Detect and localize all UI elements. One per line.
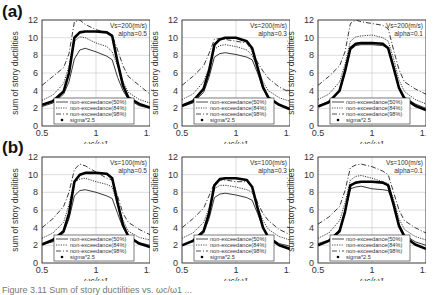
x-axis-label: ωc/ω1	[224, 139, 249, 144]
y-axis-label: sum of story ductilities	[10, 168, 20, 252]
y-tick-label: 4	[173, 223, 178, 233]
y-tick-label: 10	[168, 33, 178, 43]
annotation-text: alpha=0.1	[394, 30, 423, 38]
y-tick-label: 6	[309, 205, 314, 215]
legend-entry: sigma*2.5	[70, 117, 95, 123]
y-tick-label: 6	[33, 205, 38, 215]
x-tick-label: 1.5	[420, 265, 426, 275]
y-tick-label: 4	[309, 86, 314, 96]
y-tick-label: 6	[173, 205, 178, 215]
x-tick-label: 1	[233, 128, 238, 138]
x-axis-label: ωc/ω1	[224, 276, 249, 281]
x-tick-label: 1	[93, 128, 98, 138]
y-tick-label: 10	[28, 33, 38, 43]
chart-b-1: 0246810120.511.5sum of story ductilities…	[0, 145, 150, 281]
x-tick-label: 1	[369, 128, 374, 138]
x-tick-label: 1	[93, 265, 98, 275]
annotation-text: Vs=200(m/s)	[386, 22, 423, 30]
x-axis-label: ωc/ω1	[360, 276, 385, 281]
y-tick-label: 2	[33, 240, 38, 250]
y-tick-label: 10	[168, 170, 178, 180]
x-axis-label: ωc/ω1	[84, 276, 109, 281]
x-axis-label: ωc/ω1	[84, 139, 109, 144]
legend-entry: sigma*2.5	[346, 117, 371, 123]
chart-b-3: 0246810120.511.5sum of story ductilities…	[276, 145, 426, 281]
x-tick-label: 1	[233, 265, 238, 275]
y-tick-label: 12	[28, 15, 38, 25]
legend: non-exceedance(50%)non-exceedance(84%)no…	[330, 98, 410, 124]
annotation-text: alpha=0.1	[394, 167, 423, 175]
chart-a-3: 0246810120.511.5sum of story ductilities…	[276, 8, 426, 144]
y-tick-label: 8	[309, 50, 314, 60]
y-tick-label: 8	[173, 187, 178, 197]
legend: non-exceedance(50%)non-exceedance(84%)no…	[54, 98, 134, 124]
annotation-text: Vs=100(m/s)	[386, 159, 423, 167]
y-tick-label: 2	[173, 240, 178, 250]
y-tick-label: 10	[304, 33, 314, 43]
chart-b-2: 0246810120.511.5sum of story ductilities…	[140, 145, 290, 281]
legend-entry: sigma*2.5	[210, 254, 235, 260]
y-axis-label: sum of story ductilities	[150, 31, 160, 115]
chart-a-2: 0246810120.511.5sum of story ductilities…	[140, 8, 290, 144]
y-tick-label: 12	[168, 15, 178, 25]
x-tick-label: 0.5	[36, 265, 49, 275]
y-tick-label: 2	[173, 103, 178, 113]
x-tick-label: 1	[369, 265, 374, 275]
legend-entry: sigma*2.5	[70, 254, 95, 260]
y-tick-label: 2	[309, 103, 314, 113]
y-tick-label: 4	[173, 86, 178, 96]
y-tick-label: 8	[309, 187, 314, 197]
y-tick-label: 12	[28, 152, 38, 162]
x-tick-label: 0.5	[176, 128, 189, 138]
y-tick-label: 4	[309, 223, 314, 233]
y-tick-label: 6	[309, 68, 314, 78]
y-tick-label: 10	[304, 170, 314, 180]
figure-caption: Figure 3.11 Sum of story ductilities vs.…	[2, 285, 192, 295]
legend-entry: sigma*2.5	[210, 117, 235, 123]
y-tick-label: 4	[33, 223, 38, 233]
y-tick-label: 6	[33, 68, 38, 78]
legend: non-exceedance(50%)non-exceedance(84%)no…	[330, 235, 410, 261]
y-tick-label: 10	[28, 170, 38, 180]
y-axis-label: sum of story ductilities	[150, 168, 160, 252]
y-tick-label: 8	[33, 50, 38, 60]
x-axis-label: ωc/ω1	[360, 139, 385, 144]
y-axis-label: sum of story ductilities	[286, 168, 296, 252]
x-tick-label: 0.5	[36, 128, 49, 138]
y-tick-label: 12	[168, 152, 178, 162]
chart-a-1: 0246810120.511.5sum of story ductilities…	[0, 8, 150, 144]
x-tick-label: 0.5	[176, 265, 189, 275]
x-tick-label: 0.5	[312, 265, 325, 275]
y-tick-label: 8	[33, 187, 38, 197]
legend: non-exceedance(50%)non-exceedance(84%)no…	[194, 235, 274, 261]
y-axis-label: sum of story ductilities	[286, 31, 296, 115]
y-axis-label: sum of story ductilities	[10, 31, 20, 115]
x-tick-label: 0.5	[312, 128, 325, 138]
legend-entry: sigma*2.5	[346, 254, 371, 260]
y-tick-label: 6	[173, 68, 178, 78]
x-tick-label: 1.5	[420, 128, 426, 138]
legend: non-exceedance(50%)non-exceedance(84%)no…	[194, 98, 274, 124]
y-tick-label: 12	[304, 15, 314, 25]
y-tick-label: 2	[309, 240, 314, 250]
y-tick-label: 8	[173, 50, 178, 60]
y-tick-label: 2	[33, 103, 38, 113]
y-tick-label: 12	[304, 152, 314, 162]
y-tick-label: 4	[33, 86, 38, 96]
legend: non-exceedance(50%)non-exceedance(84%)no…	[54, 235, 134, 261]
